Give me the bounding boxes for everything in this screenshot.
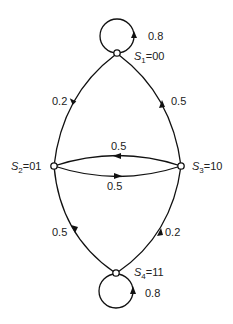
node-s4 bbox=[113, 270, 119, 276]
node-s2-label: S2=01 bbox=[11, 160, 41, 175]
node-s2 bbox=[51, 163, 57, 169]
node-s1-label: S1=00 bbox=[134, 50, 164, 65]
edge-label-s1-s2: 0.2 bbox=[52, 95, 67, 107]
edge-label-s2-s4: 0.5 bbox=[52, 226, 67, 238]
edge-label-s1-self: 0.8 bbox=[148, 30, 163, 42]
edge-label-s2-s3: 0.5 bbox=[107, 180, 122, 192]
edge-s3-to-s1 bbox=[119, 55, 181, 166]
edge-s4-self-loop bbox=[99, 274, 133, 308]
edge-s1-self-loop bbox=[100, 19, 134, 53]
state-diagram: S1=00 S2=01 S3=10 S4=11 0.8 0.2 0.5 0.5 … bbox=[0, 0, 233, 324]
edge-label-s4-self: 0.8 bbox=[145, 287, 160, 299]
edge-s1-to-s2 bbox=[54, 55, 115, 166]
node-s3-label: S3=10 bbox=[192, 160, 222, 175]
arrow-icon bbox=[71, 225, 78, 233]
edge-s4-to-s3 bbox=[118, 166, 181, 272]
arrow-icon bbox=[114, 173, 122, 179]
edge-s2-to-s4 bbox=[54, 166, 114, 272]
node-s1 bbox=[114, 50, 120, 56]
node-s3 bbox=[178, 163, 184, 169]
edge-label-s4-s3: 0.2 bbox=[165, 226, 180, 238]
arrow-icon bbox=[130, 286, 136, 294]
arrow-icon bbox=[113, 153, 121, 159]
edge-label-s3-s1: 0.5 bbox=[171, 95, 186, 107]
arrow-icon bbox=[131, 31, 137, 38]
edge-label-s3-s2: 0.5 bbox=[111, 140, 126, 152]
node-s4-label: S4=11 bbox=[134, 266, 164, 281]
